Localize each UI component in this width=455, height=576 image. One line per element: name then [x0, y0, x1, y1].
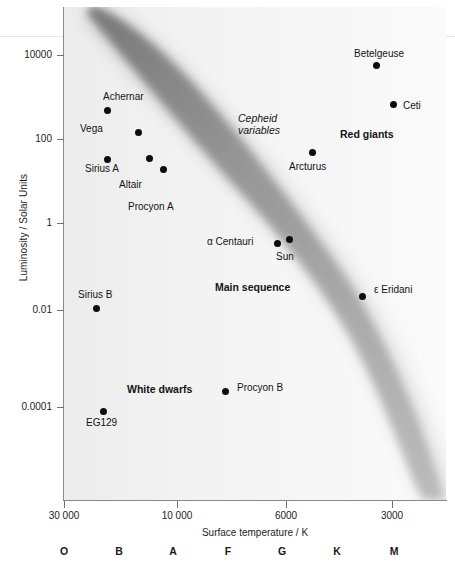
- annotation-white-dwarfs: White dwarfs: [127, 383, 192, 395]
- y-tick-mark-0.0001: [57, 407, 64, 408]
- annotation-cepheid-variables-line1: Cepheid: [238, 112, 277, 124]
- star-dot-procyon-b[interactable]: [222, 388, 229, 395]
- star-dot-procyon-a[interactable]: [160, 166, 167, 173]
- spectral-class-A: A: [153, 545, 193, 557]
- star-dot-alpha-centauri[interactable]: [274, 240, 281, 247]
- spectral-class-F: F: [208, 545, 248, 557]
- star-label-betelgeuse: Betelgeuse: [354, 48, 404, 59]
- spectral-class-B: B: [99, 545, 139, 557]
- star-dot-arcturus[interactable]: [309, 149, 316, 156]
- y-tick-label-0.0001: 0.0001: [2, 402, 52, 412]
- annotation-cepheid-variables-line2: variables: [238, 124, 280, 136]
- x-tick-label-30000: 30 000: [29, 510, 99, 521]
- star-label-ceti: Ceti: [403, 100, 421, 111]
- star-dot-sun[interactable]: [286, 236, 293, 243]
- star-dot-ceti[interactable]: [390, 101, 397, 108]
- x-axis-title: Surface temperature / K: [63, 527, 447, 538]
- star-label-altair: Altair: [119, 179, 142, 190]
- spectral-class-O: O: [44, 545, 84, 557]
- star-dot-vega[interactable]: [104, 156, 111, 163]
- star-dot-altair[interactable]: [146, 155, 153, 162]
- star-dot-epsilon-eridani[interactable]: [359, 293, 366, 300]
- star-dot-sirius-a[interactable]: [135, 129, 142, 136]
- x-tick-mark-10000: [177, 501, 178, 508]
- y-tick-mark-0.01: [57, 310, 64, 311]
- y-tick-label-10000: 10000: [2, 50, 52, 60]
- star-label-achernar: Achernar: [103, 91, 144, 102]
- y-tick-mark-1: [57, 223, 64, 224]
- hr-diagram-figure: 10000 100 1 0.01 0.0001 30 000 10 000 60…: [0, 0, 455, 576]
- star-dot-betelgeuse[interactable]: [373, 62, 380, 69]
- x-tick-mark-30000: [64, 501, 65, 508]
- x-tick-label-6000: 6000: [251, 510, 321, 521]
- star-label-epsilon-eridani: ε Eridani: [374, 284, 412, 295]
- star-label-vega: Vega: [80, 123, 103, 134]
- plot-area: [64, 7, 446, 500]
- y-tick-mark-10000: [57, 55, 64, 56]
- star-label-sun: Sun: [276, 251, 294, 262]
- annotation-red-giants: Red giants: [340, 128, 394, 140]
- star-label-sirius-a: Sirius A: [85, 163, 119, 174]
- star-dot-sirius-b[interactable]: [93, 305, 100, 312]
- annotation-main-sequence: Main sequence: [215, 281, 290, 293]
- x-tick-mark-3000: [392, 501, 393, 508]
- x-tick-mark-6000: [286, 501, 287, 508]
- x-tick-label-3000: 3000: [357, 510, 427, 521]
- y-tick-mark-100: [57, 139, 64, 140]
- y-axis-title: Luminosity / Solar Units: [18, 133, 29, 323]
- star-label-arcturus: Arcturus: [289, 161, 326, 172]
- spectral-class-M: M: [374, 545, 414, 557]
- spectral-class-G: G: [262, 545, 302, 557]
- x-axis-line: [63, 500, 447, 501]
- star-dot-eg129[interactable]: [100, 408, 107, 415]
- star-dot-achernar[interactable]: [104, 107, 111, 114]
- star-label-sirius-b: Sirius B: [78, 289, 112, 300]
- star-label-procyon-b: Procyon B: [237, 382, 283, 393]
- main-sequence-band: [64, 7, 446, 500]
- star-label-eg129: EG129: [86, 417, 117, 428]
- x-tick-label-10000: 10 000: [142, 510, 212, 521]
- y-axis-line: [63, 7, 64, 501]
- star-label-alpha-centauri: α Centauri: [207, 236, 253, 247]
- star-label-procyon-a: Procyon A: [128, 201, 174, 212]
- spectral-class-K: K: [317, 545, 357, 557]
